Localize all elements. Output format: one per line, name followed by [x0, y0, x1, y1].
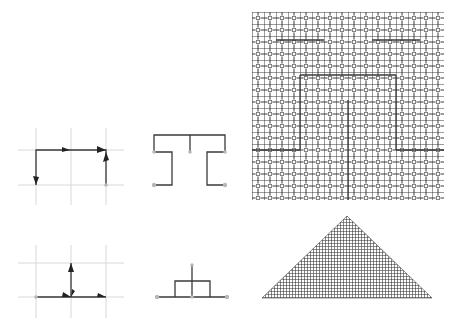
start-node: [34, 295, 38, 299]
arrow-icon: [97, 293, 106, 297]
iteration-a-panel: [152, 135, 227, 187]
node: [152, 150, 156, 154]
iteration-path: [157, 265, 227, 297]
fractal-a-panel: [252, 12, 444, 200]
arrow-icon: [97, 146, 106, 153]
node: [155, 295, 159, 299]
arrow-icon: [68, 263, 74, 272]
node: [223, 150, 227, 154]
node: [188, 150, 192, 154]
iteration-b-panel: [155, 263, 229, 299]
arrow-icon: [33, 176, 39, 185]
grid: [18, 128, 124, 205]
node: [223, 183, 227, 187]
start-node: [104, 183, 108, 187]
node: [190, 263, 194, 267]
fractal-b-panel: [262, 216, 432, 298]
figure-canvas: [0, 0, 462, 330]
generator-b-panel: [18, 245, 124, 318]
triangle-fractal: [262, 216, 432, 298]
arrow-icon: [103, 152, 109, 162]
node: [152, 183, 156, 187]
node: [225, 295, 229, 299]
node: [190, 295, 194, 299]
generator-a-panel: [18, 128, 124, 205]
arrow-icon: [62, 292, 71, 297]
iteration-path: [154, 135, 225, 185]
